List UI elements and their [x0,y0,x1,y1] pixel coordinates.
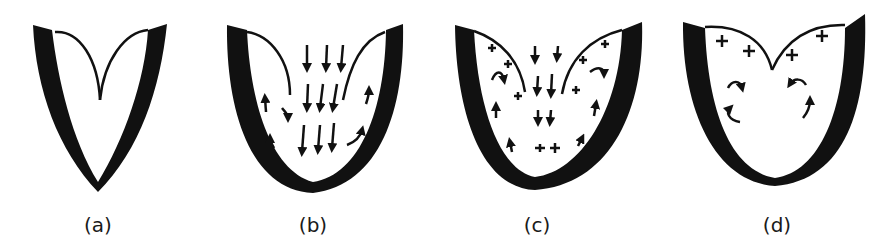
leaflet-left-b [247,32,290,95]
panel-label-a: (a) [84,213,112,237]
panel-label-b: (b) [299,213,327,237]
leaflet-left-c [474,31,525,92]
plus-signs-c [488,40,609,153]
panel-a [33,24,167,192]
panel-label-c: (c) [524,213,551,237]
flow-arrows-b [265,45,369,152]
panel-d [683,14,865,186]
chamber-wall-b [227,24,403,193]
chamber-wall-a [33,24,167,192]
leaflet-right-d [772,25,845,70]
leaflet-right-b [343,32,385,100]
chamber-wall-d [683,14,865,186]
vortex-arrows-d [728,80,810,122]
leaflet-left-d [705,27,772,70]
chamber-wall-c [455,22,642,190]
diagram-canvas [0,0,889,251]
panel-b [227,24,403,193]
plus-signs-d [716,30,828,61]
leaflet-right-c [562,30,622,94]
panel-label-d: (d) [763,213,791,237]
panel-c [455,22,642,190]
